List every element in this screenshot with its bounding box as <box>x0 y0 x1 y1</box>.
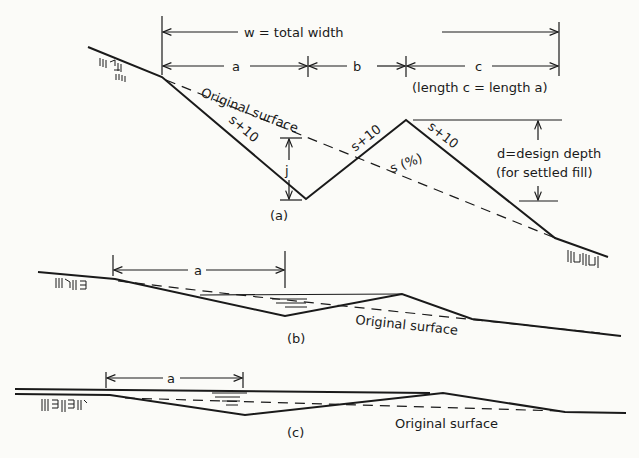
total-width-label: w = total width <box>244 25 343 40</box>
design-depth-note: (for settled fill) <box>496 165 593 180</box>
length-note: (length c = length a) <box>412 80 548 95</box>
panel-a-caption: (a) <box>270 208 288 223</box>
b-soil-hatch-icon <box>56 278 86 290</box>
dim-b-label: b <box>353 59 361 74</box>
panel-c-caption: (c) <box>287 425 304 440</box>
dim-a-label: a <box>232 59 240 74</box>
panel-b-caption: (b) <box>287 331 305 346</box>
b-dim-a-label: a <box>194 263 202 278</box>
c-soil-hatch-icon <box>42 399 87 412</box>
panel-b: a Original surface (b) <box>38 251 621 346</box>
c-original-surface-label: Original surface <box>395 416 498 431</box>
c-dim-a-label: a <box>167 371 175 386</box>
c-water-hatch <box>212 393 247 405</box>
slope-middle-label: s+10 <box>348 121 384 154</box>
c-water-surface-line <box>15 389 430 393</box>
ground-slope-label: s (%) <box>388 150 425 176</box>
dim-c-label: c <box>475 59 482 74</box>
slope-right-label: s+10 <box>425 119 461 152</box>
terrace-diagram: w = total width a b c (length c = length… <box>0 0 639 458</box>
b-water-surface <box>200 294 402 295</box>
design-depth-label: d=design depth <box>497 146 601 161</box>
panel-c: a Original surface (c) <box>15 371 626 440</box>
dim-j-label: j <box>284 163 289 178</box>
panel-a: w = total width a b c (length c = length… <box>88 16 608 268</box>
soil-hatch-left-icon <box>100 58 125 82</box>
